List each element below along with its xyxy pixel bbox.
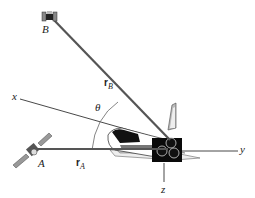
space-shuttle-icon [108,103,200,162]
label-vector-rb: rB [104,78,113,91]
satellite-b-icon [42,11,57,21]
label-point-a: A [38,158,45,169]
label-point-b: B [42,24,49,35]
label-axis-x: x [12,91,17,102]
satellite-a-icon [13,133,52,168]
label-angle-theta: θ [95,102,100,113]
vector-rb-subscript: B [108,82,113,91]
label-vector-ra: rA [76,158,85,171]
label-axis-z: z [161,184,165,195]
vector-ra-subscript: A [80,162,85,171]
label-axis-y: y [240,144,245,155]
